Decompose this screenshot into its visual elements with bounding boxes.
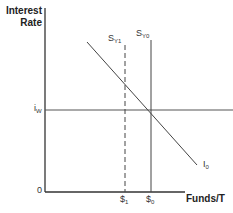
s1-tick-label: $1 — [120, 194, 128, 204]
s1-sub: 1 — [125, 199, 128, 205]
iw-sub: W — [36, 108, 42, 114]
y-axis-label-line1: Interest — [4, 5, 42, 17]
sy0-sub: Y0 — [142, 33, 149, 39]
x-axis-label: Funds/T — [186, 193, 225, 204]
sy0-label: SY0 — [136, 28, 149, 38]
iw-label: iW — [34, 103, 42, 113]
origin-label: 0 — [37, 185, 42, 195]
sy1-sub: Y1 — [114, 38, 121, 44]
y-axis-label: Interest Rate — [4, 5, 42, 29]
i0-sub: 0 — [206, 164, 209, 170]
y-axis-label-line2: Rate — [4, 17, 42, 29]
i0-label: I0 — [203, 159, 209, 169]
investment-i0-line — [87, 42, 197, 165]
s0-tick-label: $0 — [146, 194, 154, 204]
s0-sub: 0 — [151, 199, 154, 205]
sy1-label: SY1 — [108, 33, 121, 43]
